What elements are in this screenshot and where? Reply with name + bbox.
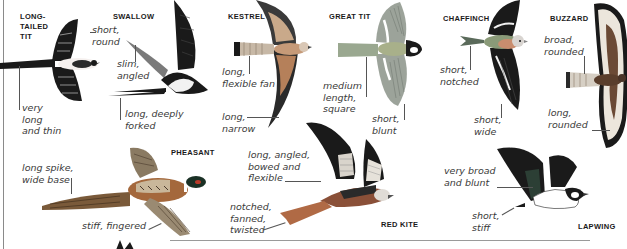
- leader-line: [497, 187, 533, 188]
- annotation-swallow-tail: long, deeply forked: [125, 108, 184, 131]
- leader-line: [135, 45, 136, 62]
- annotation-red-kite-tail: notched, fanned, twisted: [230, 201, 272, 236]
- label-lapwing: LAPWING: [578, 222, 616, 232]
- annotation-chaffinch-wing: short, wide: [474, 114, 501, 137]
- annotation-swallow-wing: slim, angled: [117, 58, 149, 81]
- leader-line: [366, 57, 367, 97]
- annotation-pheasant-wing: stiff, fingered: [82, 220, 146, 232]
- annotation-kestrel-wing: long, narrow: [222, 111, 255, 134]
- chaffinch-illustration: [460, 0, 540, 125]
- annotation-lapwing-wing: very broad and blunt: [444, 165, 496, 188]
- leader-line: [470, 46, 471, 70]
- annotation-pheasant-tail: long spike, wide base: [22, 162, 74, 185]
- leader-line: [19, 66, 20, 110]
- leader-line: [249, 56, 250, 74]
- annotation-buzzard-wing: long, rounded: [548, 107, 588, 130]
- leader-line: [501, 104, 502, 118]
- leader-line: [404, 104, 405, 120]
- long-tailed-tit-illustration: [0, 15, 100, 105]
- leader-line: [120, 98, 121, 120]
- annotation-long-tailed-tit-tail: very long and thin: [22, 102, 61, 137]
- lapwing-illustration: [495, 143, 590, 218]
- annotation-chaffinch-tail: short, notched: [440, 64, 479, 87]
- annotation-great-tit-tail: medium length, square: [323, 80, 362, 115]
- bird-flight-silhouettes-figure: LONG- TAILED TIT short, round very long …: [0, 0, 627, 249]
- bottom-divider-rule: [170, 240, 590, 241]
- leader-line: [71, 178, 72, 194]
- annotation-buzzard-tail: broad, rounded: [544, 34, 584, 57]
- swallow-illustration: [106, 0, 206, 100]
- leader-line: [247, 117, 279, 118]
- leader-line: [584, 56, 585, 74]
- annotation-lapwing-tail: short, stiff: [472, 210, 499, 233]
- partial-bird-silhouette: [110, 238, 140, 249]
- leader-line: [592, 130, 610, 131]
- annotation-red-kite-wing: long, angled, bowed and flexible: [248, 149, 310, 184]
- leader-line: [90, 32, 96, 33]
- leader-line: [285, 181, 321, 182]
